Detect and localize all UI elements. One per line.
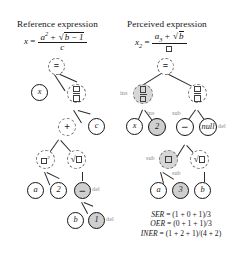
perc-node-equals[interactable]: = (157, 58, 174, 75)
perc-op-label-sub-minus: sub (172, 110, 181, 116)
perc-op-label-sub-three: sub (172, 170, 181, 176)
empty-box-icon (165, 156, 172, 163)
tree-edge (167, 73, 193, 87)
panel-title-perceived: Perceived expression (127, 19, 207, 29)
equation-perceived-numerator: a3 + √b (152, 31, 187, 44)
tree-edge (60, 140, 71, 152)
ref-node-sqrt[interactable]: √ (67, 150, 86, 169)
ref-op-label-del-minus: del (92, 186, 100, 192)
ref-node-fraction[interactable] (67, 84, 86, 103)
tree-edge (78, 110, 91, 115)
ref-node-power[interactable]: 2 (36, 150, 55, 169)
metric-line-ser: SER = (1 + 0 + 1)/3 (121, 210, 241, 219)
tree-edge (58, 73, 78, 82)
ref-node-minus[interactable]: − (74, 182, 91, 199)
ref-node-a[interactable]: a (27, 182, 44, 199)
perc-node-minus[interactable]: − (176, 118, 194, 136)
perc-node-fraction[interactable] (188, 84, 207, 103)
tree-edge (84, 202, 94, 207)
equation-reference-denominator: c (38, 42, 87, 53)
metric-line-iner: INER = (1 + 2 + 1)/(4 + 2) (121, 229, 241, 238)
fraction-icon (194, 86, 201, 102)
ref-node-c[interactable]: c (88, 118, 105, 135)
fraction-icon (140, 86, 147, 102)
ref-node-equals[interactable]: = (48, 58, 65, 75)
radical-icon: √ (194, 155, 205, 164)
perc-op-label-del-null: del (218, 123, 226, 129)
perc-node-sqrt[interactable]: √ (190, 150, 209, 169)
equation-perceived-denominator (152, 43, 187, 54)
perc-node-box-substituted[interactable] (159, 150, 178, 169)
ref-op-label-del-one: del (106, 216, 114, 222)
perc-node-3[interactable]: 3 (172, 182, 189, 199)
perc-node-a[interactable]: a (150, 182, 167, 199)
perc-op-label-sub-box: sub (146, 155, 155, 161)
tree-edge (47, 172, 60, 179)
perc-op-label-ins-two: ins (147, 110, 154, 116)
equation-perceived-lhs: x2 (135, 37, 142, 47)
tree-edge (82, 172, 83, 181)
perc-node-null[interactable]: null (199, 118, 217, 136)
ref-node-b[interactable]: b (67, 212, 84, 229)
metrics-block: SER = (1 + 0 + 1)/3 OER = (0 + 1 + 1)/3 … (121, 210, 241, 238)
panel-title-reference: Reference expression (17, 19, 98, 29)
ref-node-1[interactable]: 1 (88, 212, 105, 229)
perc-node-x[interactable]: x (126, 118, 143, 135)
equation-perceived: x2 = a3 + √b (135, 31, 187, 54)
ref-node-plus[interactable]: + (58, 118, 76, 136)
expression-tree-edit-distance-figure: Reference expression Perceived expressio… (0, 0, 243, 255)
equation-reference-rel: = (30, 36, 37, 46)
equation-reference-fraction: a2 + √b − 1 c (38, 31, 87, 53)
tree-edge (204, 172, 205, 182)
equation-perceived-rel: = (144, 37, 151, 47)
perc-op-label-ins-fraction: ins (120, 90, 127, 96)
metric-line-oer: OER = (0 + 1 + 1)/3 (121, 219, 241, 228)
equation-reference-lhs: x (24, 36, 28, 46)
equation-reference: x = a2 + √b − 1 c (24, 31, 87, 53)
equation-reference-numerator: a2 + √b − 1 (38, 31, 87, 43)
equation-perceived-fraction: a3 + √b (152, 31, 187, 54)
radical-icon: √ (71, 155, 82, 164)
ref-node-x[interactable]: x (31, 84, 48, 101)
perc-node-b[interactable]: b (194, 182, 211, 199)
ref-node-2[interactable]: 2 (50, 182, 67, 199)
perc-node-fraction-inserted[interactable] (133, 84, 153, 104)
perc-node-2[interactable]: 2 (148, 118, 166, 136)
power-icon: 2 (41, 155, 50, 164)
fraction-icon (73, 86, 80, 102)
